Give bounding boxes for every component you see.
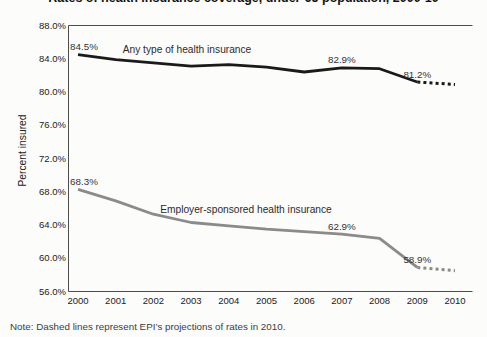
x-tick-label: 2007 [326,296,358,306]
data-point-label: 81.2% [396,70,438,80]
x-tick-label: 2010 [439,296,471,306]
x-tick-label: 2003 [175,296,207,306]
y-tick-label: 80.0% [26,87,66,97]
series-inline-label: Employer-sponsored health insurance [131,204,361,215]
series-line-0 [78,55,417,82]
y-tick-label: 88.0% [26,21,66,31]
data-point-label: 58.9% [396,255,438,265]
data-point-label: 62.9% [321,222,363,232]
x-tick-label: 2008 [364,296,396,306]
series-line-1 [78,189,417,267]
y-tick-label: 56.0% [26,287,66,297]
x-tick-label: 2006 [288,296,320,306]
chart-figure: Rates of health insurance coverage, unde… [0,0,487,337]
x-tick-label: 2000 [62,296,94,306]
x-tick-label: 2009 [401,296,433,306]
x-tick-label: 2004 [213,296,245,306]
y-tick-label: 84.0% [26,54,66,64]
y-tick-label: 76.0% [26,120,66,130]
series-projection-line-0 [417,82,455,85]
x-tick-label: 2005 [251,296,283,306]
series-inline-label: Any type of health insurance [72,44,302,55]
y-tick-label: 68.0% [26,187,66,197]
source-note: Note: Dashed lines represent EPI’s proje… [10,321,285,332]
y-tick-label: 72.0% [26,154,66,164]
data-point-label: 82.9% [321,55,363,65]
series-projection-line-1 [417,267,455,270]
y-tick-label: 64.0% [26,220,66,230]
x-tick-label: 2001 [100,296,132,306]
x-tick-label: 2002 [137,296,169,306]
y-tick-label: 60.0% [26,253,66,263]
data-point-label: 68.3% [63,177,105,187]
